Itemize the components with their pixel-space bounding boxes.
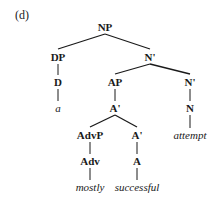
tree-node-ap: AP [108,77,123,88]
tree-node-dp: DP [51,52,66,63]
tree-leaf-successful: successful [115,182,160,193]
tree-node-advp: AdvP [77,130,103,141]
tree-edge [150,64,190,74]
tree-leaf-a_word: a [55,103,61,114]
tree-leaf-attempt: attempt [174,130,207,141]
tree-node-np: NP [98,22,113,33]
tree-edge [105,34,150,49]
tree-node-adv: Adv [80,156,100,167]
tree-node-a: A [133,156,141,167]
tree-edge [115,115,137,127]
tree-leaf-mostly: mostly [76,182,105,193]
tree-node-nbar2: N' [185,77,196,88]
tree-node-n: N [186,103,194,114]
tree-edge [115,64,150,74]
tree-node-abar2: A' [132,130,143,141]
tree-edge [90,115,115,127]
tree-node-d: D [54,77,62,88]
tree-node-abar1: A' [110,103,121,114]
tree-node-nbar1: N' [145,52,156,63]
tree-edge [58,34,105,49]
